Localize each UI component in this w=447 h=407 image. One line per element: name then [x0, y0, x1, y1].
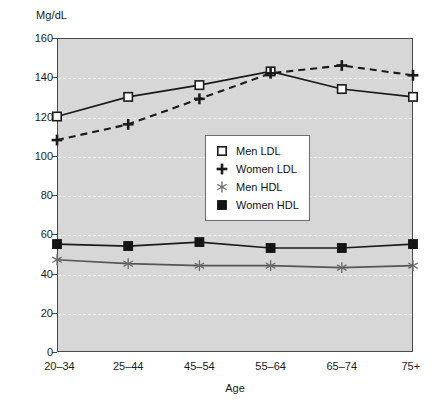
- x-axis-tick-labels: 20–3425–4445–5455–6465–7475+: [57, 360, 413, 376]
- x-axis-tick-label: 25–44: [113, 360, 144, 372]
- data-point-open-square: [53, 112, 61, 120]
- y-axis-tick-label: 20: [19, 307, 53, 319]
- x-axis-tick-label: 20–34: [44, 360, 75, 372]
- data-point-plus: [336, 60, 347, 71]
- x-axis-tick-label: 55–64: [255, 360, 286, 372]
- data-point-plus: [217, 164, 228, 175]
- y-axis-tick-label: 80: [19, 189, 53, 201]
- chart-figure: Mg/dL 020406080100120140160 20–3425–4445…: [0, 0, 447, 407]
- data-point-open-square: [195, 81, 203, 89]
- y-axis-tick-label: 160: [19, 32, 53, 44]
- legend: Men LDLWomen LDLMen HDLWomen HDL: [205, 135, 310, 221]
- y-axis-tick-label: 140: [19, 71, 53, 83]
- data-point-open-square: [218, 147, 226, 155]
- data-point-open-square: [338, 85, 346, 93]
- y-axis-tick-label: 0: [19, 346, 53, 358]
- asterisk-icon: [214, 179, 230, 195]
- data-point-asterisk: [217, 182, 226, 193]
- data-point-filled-square: [195, 238, 204, 247]
- legend-item-label: Men LDL: [236, 145, 281, 157]
- legend-item-label: Women HDL: [236, 199, 299, 211]
- data-point-filled-square: [409, 240, 418, 249]
- series-line: [57, 65, 413, 140]
- series-line: [57, 260, 413, 268]
- legend-item: Men LDL: [214, 142, 299, 160]
- x-axis-tick-label: 65–74: [327, 360, 358, 372]
- data-point-plus: [194, 93, 205, 104]
- x-axis-tick-label: 45–54: [184, 360, 215, 372]
- data-point-open-square: [124, 93, 132, 101]
- x-axis-tick-label: 75+: [401, 360, 420, 372]
- y-axis-tick-labels: 020406080100120140160: [14, 38, 53, 352]
- series-line: [57, 242, 413, 248]
- y-axis-tick-label: 60: [19, 228, 53, 240]
- data-point-filled-square: [53, 240, 62, 249]
- y-axis-tick-label: 100: [19, 150, 53, 162]
- y-axis-tick-label: 40: [19, 268, 53, 280]
- data-point-filled-square: [266, 244, 275, 253]
- series-men-ldl: [53, 67, 417, 121]
- y-axis-unit-title: Mg/dL: [36, 9, 67, 21]
- data-point-plus: [123, 119, 134, 130]
- series-women-hdl: [53, 238, 418, 253]
- y-axis-tick-label: 120: [19, 111, 53, 123]
- legend-item: Women LDL: [214, 160, 299, 178]
- filled-square-icon: [214, 197, 230, 213]
- data-point-filled-square: [124, 242, 133, 251]
- legend-item-label: Men HDL: [236, 181, 282, 193]
- data-point-filled-square: [337, 244, 346, 253]
- x-axis-title: Age: [57, 382, 413, 394]
- legend-item: Women HDL: [214, 196, 299, 214]
- series-men-hdl: [52, 254, 417, 273]
- series-line: [57, 71, 413, 116]
- data-point-filled-square: [218, 201, 227, 210]
- legend-item: Men HDL: [214, 178, 299, 196]
- data-point-plus: [408, 70, 419, 81]
- plus-icon: [214, 161, 230, 177]
- legend-item-label: Women LDL: [236, 163, 297, 175]
- open-square-icon: [214, 143, 230, 159]
- data-point-open-square: [409, 93, 417, 101]
